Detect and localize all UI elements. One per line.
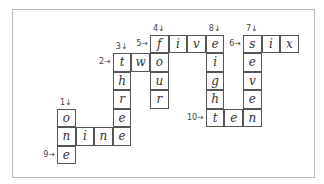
grid-cell[interactable]: i [76,127,95,146]
grid-cell[interactable]: t [113,53,132,72]
grid-cell[interactable]: e [243,90,262,109]
clue-number-label: 1↓ [60,98,72,108]
grid-cell[interactable]: e [113,109,132,128]
grid-cell[interactable]: h [206,90,225,109]
grid-cell[interactable]: u [150,72,169,91]
clue-number-label: 8↓ [209,24,221,34]
clue-number-label: 2→ [99,57,111,67]
clue-number-label: 5→ [136,39,148,49]
grid-cell[interactable]: i [169,35,188,54]
grid-cell[interactable]: e [113,127,132,146]
grid-cell[interactable]: n [243,109,262,128]
grid-cell[interactable]: e [206,35,225,54]
grid-cell[interactable]: v [243,72,262,91]
grid-cell[interactable]: s [243,35,262,54]
clue-number-label: 6→ [229,39,241,49]
grid-cell[interactable]: h [113,72,132,91]
grid-cell[interactable]: o [57,109,76,128]
clue-number-label: 3↓ [116,42,128,52]
grid-cell[interactable]: r [150,90,169,109]
grid-cell[interactable]: n [57,127,76,146]
grid-cell[interactable]: g [206,72,225,91]
grid-cell[interactable]: v [187,35,206,54]
grid-cell[interactable]: x [280,35,299,54]
grid-cell[interactable]: e [243,53,262,72]
grid-cell[interactable]: e [57,146,76,165]
grid-cell[interactable]: w [131,53,150,72]
grid-cell[interactable]: n [94,127,113,146]
clue-number-label: 4↓ [153,24,165,34]
grid-cell[interactable]: t [206,109,225,128]
grid-cell[interactable]: f [150,35,169,54]
clue-number-label: 9→ [43,150,55,160]
clue-number-label: 7↓ [246,24,258,34]
grid-cell[interactable]: i [262,35,281,54]
clue-number-label: 10→ [187,113,204,123]
grid-cell[interactable]: i [206,53,225,72]
grid-cell[interactable]: r [113,90,132,109]
grid-cell[interactable]: o [150,53,169,72]
grid-cell[interactable]: e [224,109,243,128]
